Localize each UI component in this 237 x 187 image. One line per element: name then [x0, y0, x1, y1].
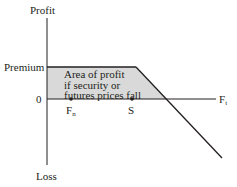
- zero-label: 0: [36, 93, 42, 105]
- premium-label: Premium: [4, 61, 44, 73]
- profit-area-annotation: Area of profit if security or futures pr…: [64, 69, 141, 101]
- profit-label: Profit: [30, 4, 55, 16]
- strike-label: S: [128, 104, 134, 116]
- breakeven-label: Fn: [66, 104, 76, 120]
- x-axis-label: Ft: [219, 93, 227, 109]
- loss-label: Loss: [36, 170, 57, 182]
- payoff-diagonal: [136, 67, 222, 158]
